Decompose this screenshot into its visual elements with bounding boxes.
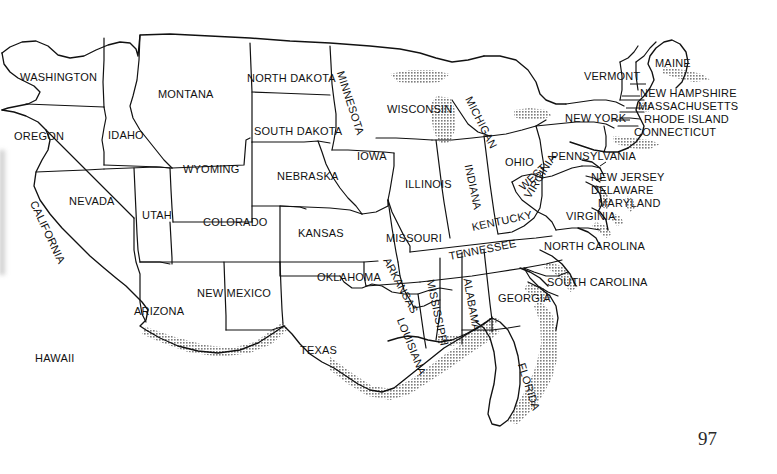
state-label-florida: FLORIDA	[516, 362, 542, 412]
state-label-maryland: MARYLAND	[598, 198, 661, 209]
state-label-washington: WASHINGTON	[20, 72, 97, 83]
state-label-virginia: VIRGINIA	[566, 211, 616, 222]
state-label-colorado: COLORADO	[203, 217, 268, 228]
state-label-new-jersey: NEW JERSEY	[591, 172, 665, 183]
state-label-illinois: ILLINOIS	[405, 179, 452, 190]
state-label-oregon: OREGON	[14, 131, 64, 142]
state-label-utah: UTAH	[142, 210, 172, 221]
state-label-layer: WASHINGTONOREGONIDAHOMONTANAWYOMINGNEVAD…	[0, 0, 777, 474]
state-label-new-hampshire: NEW HAMPSHIRE	[640, 88, 737, 99]
state-label-michigan: MICHIGAN	[463, 95, 499, 150]
state-label-pennsylvania: PENNSYLVANIA	[551, 151, 636, 162]
us-states-map-figure: WASHINGTONOREGONIDAHOMONTANAWYOMINGNEVAD…	[0, 0, 777, 474]
state-label-texas: TEXAS	[300, 345, 337, 356]
state-label-kentucky: KENTUCKY	[471, 209, 533, 233]
state-label-tennessee: TENNESSEE	[448, 238, 517, 262]
state-label-rhode-island: RHODE ISLAND	[644, 114, 729, 125]
state-label-wyoming: WYOMING	[183, 164, 239, 175]
state-label-wisconsin: WISCONSIN	[387, 104, 452, 115]
state-label-kansas: KANSAS	[298, 228, 344, 239]
state-label-nebraska: NEBRASKA	[277, 171, 339, 182]
page-number: 97	[698, 428, 717, 450]
state-label-mississippi: MISSISSIPPI	[425, 278, 450, 346]
state-label-massachusetts: MASSACHUSETTS	[638, 101, 738, 112]
state-label-arkansas: ARKANSAS	[381, 256, 420, 315]
state-label-nevada: NEVADA	[69, 196, 115, 207]
state-label-south-dakota: SOUTH DAKOTA	[254, 126, 342, 137]
state-label-ohio: OHIO	[505, 157, 534, 168]
state-label-north-carolina: NORTH CAROLINA	[544, 241, 645, 252]
state-label-delaware: DELAWARE	[591, 185, 654, 196]
state-label-alabama: ALABAMA	[462, 278, 482, 332]
state-label-indiana: INDIANA	[463, 163, 483, 210]
state-label-vermont: VERMONT	[584, 71, 640, 82]
state-label-missouri: MISSOURI	[386, 233, 442, 244]
state-label-california: CALIFORNIA	[28, 199, 67, 265]
state-label-connecticut: CONNECTICUT	[634, 127, 716, 138]
state-label-north-dakota: NORTH DAKOTA	[247, 73, 336, 84]
state-label-montana: MONTANA	[158, 89, 214, 100]
state-label-south-carolina: SOUTH CAROLINA	[547, 277, 648, 288]
state-label-hawaii: HAWAII	[35, 353, 75, 364]
state-label-idaho: IDAHO	[108, 130, 144, 141]
state-label-oklahoma: OKLAHOMA	[317, 272, 381, 283]
state-label-new-mexico: NEW MEXICO	[197, 288, 271, 299]
state-label-maine: MAINE	[655, 58, 691, 69]
state-label-georgia: GEORGIA	[498, 293, 551, 304]
state-label-louisiana: LOUISIANA	[395, 316, 428, 376]
state-label-iowa: IOWA	[357, 151, 387, 162]
state-label-new-york: NEW YORK	[565, 113, 626, 124]
state-label-arizona: ARIZONA	[134, 306, 184, 317]
